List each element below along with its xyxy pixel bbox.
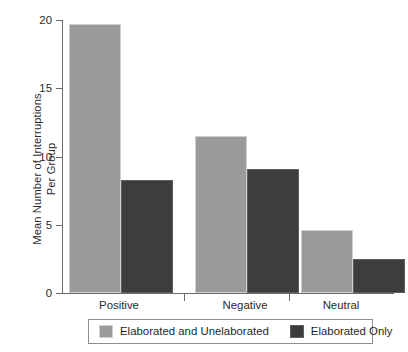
y-tick-label: 20 (26, 15, 52, 26)
bar-neutral-elaborated-only (353, 259, 405, 293)
bar-positive-elaborated-only (121, 180, 173, 293)
bar-neutral-elaborated-and-unelaborated (301, 230, 353, 293)
y-axis-tick-labels: 20 15 10 5 0 (26, 0, 52, 352)
y-tick-label: 10 (26, 152, 52, 163)
y-tick-label: 5 (26, 220, 52, 231)
y-tick-label: 15 (26, 83, 52, 94)
bar-positive-elaborated-and-unelaborated (69, 24, 121, 293)
light-gray-swatch-icon (99, 325, 113, 338)
bar-negative-elaborated-and-unelaborated (195, 136, 247, 293)
legend-entry-elaborated-only: Elaborated Only (290, 320, 393, 343)
plot-area (63, 20, 394, 293)
bar-chart-figure: Mean Number of Interruptions Per Group 2… (0, 0, 408, 352)
legend: Elaborated and Unelaborated Elaborated O… (88, 319, 373, 344)
legend-label: Elaborated Only (311, 326, 393, 337)
x-tick-mark (184, 294, 185, 301)
legend-entry-elaborated-and-unelaborated: Elaborated and Unelaborated (99, 320, 269, 343)
x-axis-line (62, 293, 394, 294)
legend-label: Elaborated and Unelaborated (120, 326, 269, 337)
x-category-label-negative: Negative (190, 300, 300, 311)
y-tick-label: 0 (26, 288, 52, 299)
x-category-label-neutral: Neutral (288, 300, 394, 311)
bar-negative-elaborated-only (247, 169, 299, 293)
x-category-label-positive: Positive (64, 300, 174, 311)
dark-gray-swatch-icon (290, 325, 304, 338)
